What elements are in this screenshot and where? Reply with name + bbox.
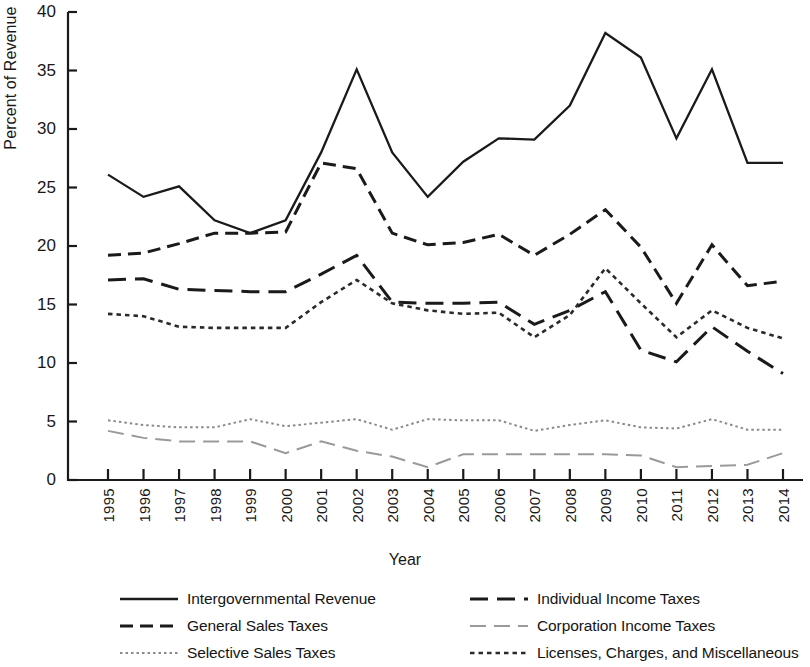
x-tick-label-2004: 2004 — [420, 488, 437, 523]
series-line-selective-sales-taxes — [108, 419, 783, 431]
legend-label: Corporation Income Taxes — [537, 617, 715, 635]
legend-swatch-icon — [470, 619, 528, 633]
x-tick-label-2014: 2014 — [775, 488, 792, 523]
x-tick-label-2012: 2012 — [704, 488, 721, 523]
legend-item[interactable]: Individual Income Taxes — [470, 586, 810, 612]
series-line-general-sales-taxes — [108, 163, 783, 303]
x-tick-label-2008: 2008 — [562, 488, 579, 523]
plot-area — [0, 0, 810, 500]
x-tick-label-2013: 2013 — [739, 488, 756, 523]
x-tick-label-2005: 2005 — [455, 488, 472, 523]
legend-item[interactable]: Selective Sales Taxes — [120, 640, 490, 666]
legend-item[interactable]: Intergovernmental Revenue — [120, 586, 490, 612]
x-tick-label-2006: 2006 — [491, 488, 508, 523]
x-tick-label-2010: 2010 — [633, 488, 650, 523]
legend-item[interactable]: General Sales Taxes — [120, 613, 490, 639]
chart-legend: Intergovernmental RevenueIndividual Inco… — [120, 586, 810, 667]
x-axis-tick-labels: 1995199619971998199920002001200220032004… — [0, 488, 810, 550]
x-tick-label-2011: 2011 — [668, 488, 685, 521]
x-tick-label-1995: 1995 — [100, 488, 117, 523]
legend-label: Intergovernmental Revenue — [187, 590, 376, 608]
legend-label: Individual Income Taxes — [537, 590, 700, 608]
legend-swatch-icon — [470, 646, 528, 660]
x-tick-label-2009: 2009 — [597, 488, 614, 523]
legend-item[interactable]: Licenses, Charges, and Miscellaneous — [470, 640, 810, 666]
legend-label: Selective Sales Taxes — [187, 644, 335, 662]
legend-swatch-icon — [470, 592, 528, 606]
x-tick-label-2000: 2000 — [278, 488, 295, 523]
x-tick-label-2003: 2003 — [384, 488, 401, 523]
legend-label: General Sales Taxes — [187, 617, 328, 635]
x-tick-label-2002: 2002 — [349, 488, 366, 523]
x-tick-label-2007: 2007 — [526, 488, 543, 523]
legend-swatch-icon — [120, 592, 178, 606]
series-line-corporation-income-taxes — [108, 431, 783, 467]
legend-swatch-icon — [120, 646, 178, 660]
x-tick-label-1999: 1999 — [242, 488, 259, 523]
x-tick-label-2001: 2001 — [313, 488, 330, 523]
series-line-licenses-charges-and-miscellaneous — [108, 268, 783, 338]
series-line-intergovernmental-revenue — [108, 33, 783, 233]
line-chart-figure: Percent of Revenue 0510152025303540 1995… — [0, 0, 810, 667]
series-line-individual-income-taxes — [108, 255, 783, 373]
legend-swatch-icon — [120, 619, 178, 633]
legend-label: Licenses, Charges, and Miscellaneous — [537, 644, 799, 662]
legend-item[interactable]: Corporation Income Taxes — [470, 613, 810, 639]
x-tick-label-1998: 1998 — [207, 488, 224, 523]
axis-spine — [68, 12, 803, 480]
x-tick-label-1997: 1997 — [171, 488, 188, 523]
x-axis-label: Year — [0, 551, 810, 569]
x-tick-label-1996: 1996 — [136, 488, 153, 523]
